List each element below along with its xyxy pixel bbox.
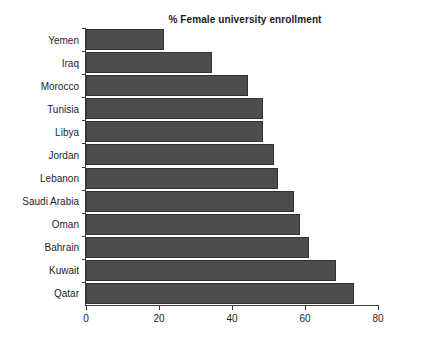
category-label: Kuwait: [49, 265, 79, 276]
x-axis-tick: [378, 306, 379, 310]
x-axis-tick-label: 0: [83, 313, 89, 324]
category-label: Saudi Arabia: [22, 196, 79, 207]
bar: [86, 75, 248, 96]
bar-row: Jordan: [86, 144, 378, 165]
bar-row: Kuwait: [86, 260, 378, 281]
category-label: Jordan: [48, 149, 79, 160]
x-axis-ticks: 020406080: [86, 306, 378, 336]
y-axis-tick: [82, 143, 86, 144]
y-axis-tick: [82, 259, 86, 260]
x-axis-tick: [86, 306, 87, 310]
category-label: Lebanon: [40, 173, 79, 184]
category-label: Yemen: [48, 34, 79, 45]
bar-row: Iraq: [86, 52, 378, 73]
category-label: Morocco: [41, 80, 79, 91]
bar: [86, 168, 278, 189]
category-label: Libya: [55, 126, 79, 137]
category-label: Tunisia: [47, 103, 79, 114]
bar: [86, 144, 274, 165]
bar-chart: % Female university enrollment YemenIraq…: [0, 0, 430, 342]
bar-row: Oman: [86, 214, 378, 235]
category-label: Bahrain: [45, 242, 79, 253]
bar-row: Libya: [86, 121, 378, 142]
y-axis-tick: [82, 282, 86, 283]
bar: [86, 121, 263, 142]
x-axis-tick: [159, 306, 160, 310]
x-axis-tick-label: 60: [299, 313, 310, 324]
y-axis-tick: [82, 167, 86, 168]
y-axis-tick: [82, 28, 86, 29]
category-label: Oman: [52, 219, 79, 230]
x-axis-tick-label: 40: [226, 313, 237, 324]
bar-row: Lebanon: [86, 168, 378, 189]
y-axis-tick: [82, 213, 86, 214]
y-axis-tick: [82, 236, 86, 237]
bar-row: Bahrain: [86, 237, 378, 258]
y-axis-tick: [82, 120, 86, 121]
bar: [86, 52, 212, 73]
plot-area: YemenIraqMoroccoTunisiaLibyaJordanLebano…: [86, 28, 378, 305]
category-label: Qatar: [54, 288, 79, 299]
bar: [86, 237, 309, 258]
bar-row: Qatar: [86, 283, 378, 304]
bar: [86, 283, 354, 304]
x-axis-tick-label: 20: [153, 313, 164, 324]
bar: [86, 260, 336, 281]
y-axis-tick: [82, 97, 86, 98]
y-axis-tick: [82, 51, 86, 52]
bar-row: Yemen: [86, 29, 378, 50]
y-axis-tick: [82, 74, 86, 75]
bar-row: Tunisia: [86, 98, 378, 119]
bar-row: Saudi Arabia: [86, 191, 378, 212]
x-axis-tick: [305, 306, 306, 310]
chart-title: % Female university enrollment: [0, 14, 430, 25]
y-axis-tick: [82, 190, 86, 191]
x-axis-tick: [232, 306, 233, 310]
category-label: Iraq: [62, 57, 79, 68]
bar: [86, 98, 263, 119]
bar-row: Morocco: [86, 75, 378, 96]
bar: [86, 29, 164, 50]
x-axis-tick-label: 80: [372, 313, 383, 324]
bar: [86, 191, 294, 212]
bar: [86, 214, 300, 235]
